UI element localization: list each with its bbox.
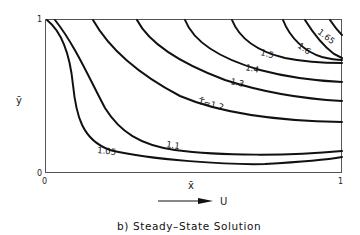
contour-unlabeled bbox=[330, 20, 342, 35]
contour-label-1-5: 1.5 bbox=[260, 47, 276, 60]
flow-arrow-icon bbox=[158, 198, 213, 204]
y-tick-1: 1 bbox=[37, 15, 42, 24]
contour-label-1-4: 1.4 bbox=[245, 62, 260, 75]
x-tick-1: 1 bbox=[338, 177, 343, 186]
flow-label: U bbox=[220, 196, 227, 207]
y-axis-label: ȳ bbox=[16, 95, 22, 106]
chart-caption: b) Steady–State Solution bbox=[117, 220, 261, 232]
contour-label-1-1: 1.1 bbox=[166, 139, 181, 151]
x-tick-0: 0 bbox=[42, 177, 47, 186]
contour-label-1-2: T̄=1.2 bbox=[197, 95, 226, 112]
contour-label-1-05: 1.05 bbox=[97, 145, 117, 157]
contour-lines bbox=[47, 20, 342, 164]
x-axis-label: x̄ bbox=[188, 180, 194, 191]
contour-label-1-65: 1.65 bbox=[316, 27, 337, 47]
contour-label-1-3: 1.3 bbox=[230, 76, 245, 89]
contour-chart: 1.05 1.1 T̄=1.2 1.3 1.4 1.5 1.6 1.65 1 0… bbox=[0, 0, 360, 235]
